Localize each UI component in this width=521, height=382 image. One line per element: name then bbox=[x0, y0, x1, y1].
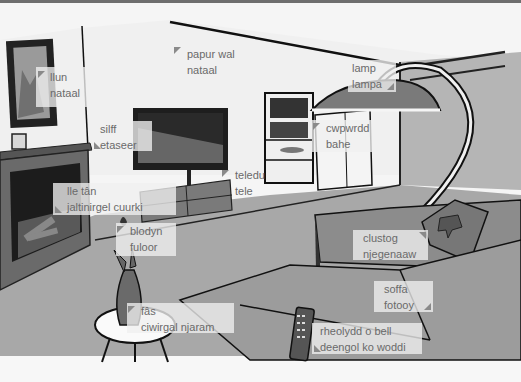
marker-icon bbox=[117, 226, 124, 233]
label-translation: njegenaaw bbox=[363, 246, 418, 262]
label-wallpaper: papur wal nataal bbox=[173, 44, 248, 80]
label-native: cwpwrdd bbox=[326, 120, 372, 136]
label-cushion: clustog njegenaaw bbox=[353, 230, 428, 260]
label-shelf: silff etaseer bbox=[92, 121, 152, 151]
marker-icon bbox=[313, 123, 320, 130]
label-flower: blodyn fuloor bbox=[116, 223, 176, 256]
label-lamp: lamp lampa bbox=[348, 60, 396, 92]
marker-icon bbox=[424, 303, 431, 310]
label-sofa: soffa fotooy bbox=[374, 281, 433, 312]
living-room-vocabulary-scene: llun nataal papur wal nataal lamp lampa … bbox=[0, 0, 521, 382]
label-translation: nataal bbox=[187, 62, 242, 78]
label-translation: jaltinirgel cuurki bbox=[67, 199, 170, 215]
marker-icon bbox=[38, 71, 45, 78]
marker-icon bbox=[387, 83, 394, 90]
label-cupboard: cwpwrdd bahe bbox=[312, 120, 378, 152]
label-translation: fotooy bbox=[384, 297, 423, 313]
label-native: lamp bbox=[352, 60, 392, 76]
label-native: llun bbox=[50, 69, 82, 85]
label-native: teledu bbox=[235, 167, 261, 183]
marker-icon bbox=[314, 345, 321, 352]
label-translation: etaseer bbox=[100, 137, 144, 153]
label-native: lle tân bbox=[67, 183, 170, 199]
label-native: blodyn bbox=[130, 223, 170, 239]
label-remote: rheolydd o bell deengol ko woddi bbox=[312, 323, 422, 354]
marker-icon bbox=[222, 170, 229, 177]
label-vase: fâs ciwirgal njaram bbox=[127, 303, 234, 333]
label-translation: lampa bbox=[352, 76, 392, 92]
label-native: soffa bbox=[384, 281, 423, 297]
label-translation: nataal bbox=[50, 85, 82, 101]
label-translation: ciwirgal njaram bbox=[141, 319, 228, 335]
label-native: fâs bbox=[141, 303, 228, 319]
label-translation: tele bbox=[235, 183, 261, 199]
label-translation: fuloor bbox=[130, 239, 170, 255]
marker-icon bbox=[55, 206, 62, 213]
marker-icon bbox=[174, 47, 181, 54]
marker-icon bbox=[128, 306, 135, 313]
label-tv: teledu tele bbox=[221, 167, 267, 199]
label-translation: deengol ko woddi bbox=[320, 339, 414, 355]
marker-icon bbox=[419, 232, 426, 239]
label-native: clustog bbox=[363, 230, 418, 246]
label-native: silff bbox=[100, 121, 144, 137]
label-fireplace: lle tân jaltinirgel cuurki bbox=[53, 183, 176, 215]
label-translation: bahe bbox=[326, 136, 372, 152]
label-native: papur wal bbox=[187, 46, 242, 62]
label-picture: llun nataal bbox=[36, 67, 88, 107]
marker-icon bbox=[94, 142, 101, 149]
label-native: rheolydd o bell bbox=[320, 323, 414, 339]
